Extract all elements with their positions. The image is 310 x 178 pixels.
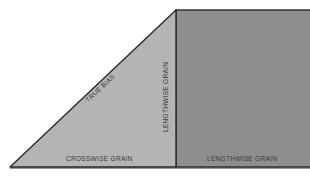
rectangle-lengthwise-grain-label: LENGTHWISE GRAIN [207, 155, 277, 162]
fabric-rectangle [176, 10, 310, 167]
fabric-grain-diagram: TRUE BIAS LENGTHWISE GRAIN CROSSWISE GRA… [0, 0, 310, 178]
diagram-canvas [0, 0, 310, 178]
triangle-lengthwise-grain-label: LENGTHWISE GRAIN [162, 62, 169, 132]
crosswise-grain-label: CROSSWISE GRAIN [66, 155, 133, 162]
